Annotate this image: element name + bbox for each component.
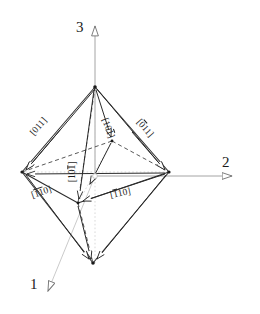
vertex-top [93,85,97,89]
axis-1-label: 1 [30,277,38,292]
vertex-bottom [91,261,95,265]
axis-1-line [48,176,95,291]
axis-3-label: 3 [76,20,84,35]
digit: 1 [67,174,77,179]
vertex-right [167,170,170,173]
octahedron-diagram [0,0,260,314]
digit: 0 [122,187,129,198]
axis-2-label: 2 [222,155,230,170]
vector-to-left-vertex [26,130,60,170]
vector-interior-vertical [79,90,94,199]
vertex-left [20,170,23,173]
vector-back-to-bottom [78,206,91,259]
vertex-back [77,202,80,205]
figure-canvas: 3 2 1 [011] [011] [101] [101] [110] [110… [0,0,260,314]
vector-right-to-bottom [97,175,166,259]
vertex-front [111,140,114,143]
digit-overbar: 1 [67,165,78,170]
direction-label-10bar1-left: [101] [66,162,78,183]
digit: 0 [67,170,77,175]
origin-marker [93,174,98,179]
